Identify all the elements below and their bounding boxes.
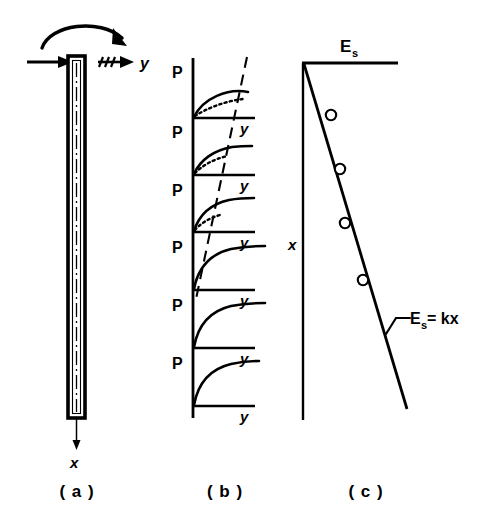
panel-c-equation-annotation: E s = kx [410,310,459,331]
panel-c-equation-rest: = kx [427,310,459,327]
lateral-force-arrow-icon [27,56,73,68]
panel-b-curve-3 [194,198,254,231]
panel-b-p-label-4: P [172,239,183,256]
panel-c-data-point [335,164,345,174]
engineering-figure: y x ( a ) P y [0,0,485,513]
panel-a-caption: ( a ) [59,482,94,501]
panel-b-curve-6 [194,361,259,405]
panel-c-data-point [358,275,368,285]
panel-b-curve-5 [194,303,265,347]
panel-c: E s x E s = kx ( c ) [287,37,459,501]
panel-b-p-label-2: P [172,124,183,141]
panel-c-depth-label: x [287,236,297,253]
hatched-deflection-arrow-icon [98,56,134,68]
panel-b: P y P y P y [172,57,265,501]
figure-canvas: y x ( a ) P y [0,0,485,513]
panel-c-data-point [340,218,350,228]
panel-a-y-label: y [139,55,150,72]
panel-c-annotation-leader [386,318,410,334]
panel-c-modulus-label-base: E [340,37,351,56]
panel-c-equation-base: E [410,310,421,327]
panel-c-modulus-label: E s [340,37,358,59]
panel-b-subplot-4: P y [172,239,265,309]
panel-b-y-label-6: y [239,408,249,425]
panel-a: y x ( a ) [27,26,150,501]
panel-a-x-label: x [69,454,79,471]
panel-c-fit-line [304,64,407,409]
panel-c-data-point [326,110,336,120]
panel-b-y-label-5: y [239,350,249,367]
panel-b-y-label-2: y [239,177,249,194]
panel-b-p-label-1: P [172,64,183,81]
panel-a-depth-arrowhead [73,440,81,450]
panel-b-p-label-3: P [172,182,183,199]
panel-b-y-label-1: y [239,120,249,137]
panel-b-p-label-5: P [172,297,183,314]
panel-c-modulus-label-sub: s [352,47,358,59]
panel-b-curve-4 [194,246,265,289]
panel-b-p-label-6: P [172,355,183,372]
panel-b-caption: ( b ) [207,482,243,501]
panel-b-subplot-5: P y [172,297,265,367]
panel-b-y-label-4: y [239,292,249,309]
moment-arrow-icon [42,26,127,48]
panel-c-caption: ( c ) [348,482,383,501]
